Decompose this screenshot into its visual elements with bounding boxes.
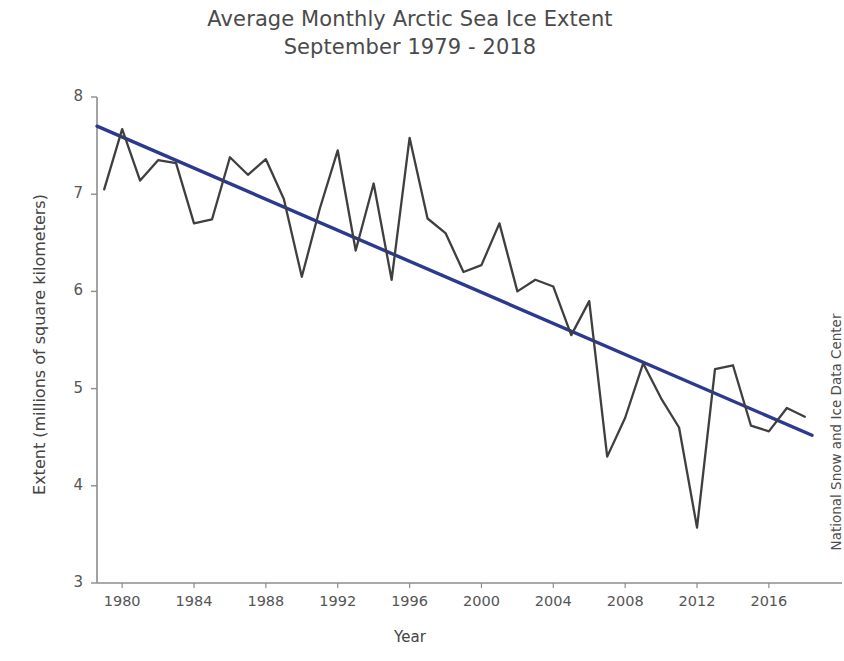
plot-area [0,0,844,661]
chart-subtitle: September 1979 - 2018 [0,34,820,62]
chart-title: Average Monthly Arctic Sea Ice Extent [0,6,820,34]
x-tick-label: 1996 [380,593,440,609]
y-axis-label: Extent (millions of square kilometers) [30,155,49,535]
x-tick-label: 2000 [451,593,511,609]
chart-title-block: Average Monthly Arctic Sea Ice Extent Se… [0,6,820,61]
x-tick-label: 1992 [308,593,368,609]
y-tick-label: 7 [53,184,83,202]
x-tick-label: 2004 [523,593,583,609]
data-source-credit: National Snow and Ice Data Center [828,282,844,582]
y-tick-label: 6 [53,281,83,299]
y-tick-label: 4 [53,476,83,494]
y-tick-marks [91,97,97,583]
x-tick-label: 1988 [236,593,296,609]
y-tick-label: 5 [53,379,83,397]
trend-line [97,126,812,435]
y-tick-label: 3 [53,573,83,591]
x-axis-label: Year [0,628,820,646]
x-tick-label: 2008 [595,593,655,609]
x-tick-label: 2012 [667,593,727,609]
y-tick-label: 8 [53,87,83,105]
x-tick-label: 1980 [92,593,152,609]
data-line-series [104,129,805,528]
chart-figure: Average Monthly Arctic Sea Ice Extent Se… [0,0,844,661]
axes-group [97,97,842,583]
x-tick-label: 1984 [164,593,224,609]
x-tick-label: 2016 [739,593,799,609]
